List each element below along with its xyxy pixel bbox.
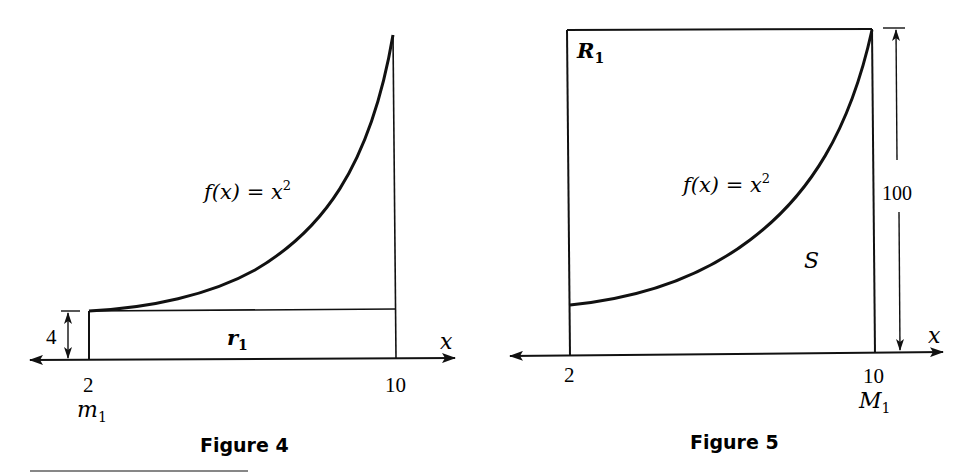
tick-label-10: 10 (385, 373, 406, 397)
tick-label-2: 2 (564, 363, 575, 387)
x-axis (510, 352, 943, 356)
x-axis (30, 358, 455, 360)
figure-5-caption: Figure 5 (690, 431, 779, 453)
rect-right-edge (872, 29, 875, 353)
max-label: M1 (858, 388, 890, 416)
rect-label: R1 (576, 38, 604, 66)
height-dimension-arrow-upper (896, 30, 897, 160)
x-axis-label: x (440, 329, 453, 354)
region-label: S (804, 248, 819, 273)
rect-top-edge (89, 309, 396, 311)
function-label: f(x) = x2 (202, 178, 291, 204)
height-label: 100 (882, 182, 912, 204)
figure-4: 4 f(x) = x2 r1 x 2 10 m1 Figure 4 (30, 35, 455, 471)
function-label: f(x) = x2 (681, 171, 770, 197)
rect-top-edge (567, 29, 872, 30)
height-label: 4 (46, 325, 57, 349)
curve-x-squared (570, 30, 872, 305)
curve-x-squared (89, 35, 393, 311)
figure-4-caption: Figure 4 (200, 434, 289, 456)
tick-label-2: 2 (83, 373, 94, 397)
rect-left-edge (567, 30, 570, 356)
height-dimension-arrow-lower (899, 212, 900, 350)
figures-canvas: 4 f(x) = x2 r1 x 2 10 m1 Figure 4 100 R1 (0, 0, 970, 475)
x-axis-label: x (928, 323, 941, 348)
min-label: m1 (77, 397, 107, 425)
rect-label: r1 (227, 325, 248, 353)
tick-label-10: 10 (863, 364, 884, 388)
figure-5: 100 R1 f(x) = x2 S x 2 10 M1 Figure 5 (510, 28, 943, 453)
